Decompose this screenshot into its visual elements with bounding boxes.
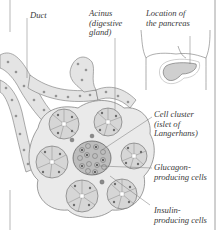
acinus-label: Acinus (digestive gland)	[89, 9, 122, 38]
glucagon-label-line2: producing cells	[154, 173, 207, 183]
duct-label: Duct	[30, 11, 47, 21]
acinus-label-line3: gland)	[89, 28, 122, 38]
duct-label-text: Duct	[30, 11, 47, 21]
islet-of-langerhans	[73, 141, 111, 175]
glucagon-label: Glucagon- producing cells	[154, 163, 207, 182]
location-label-line2: the pancreas	[146, 19, 190, 29]
insulin-label: Insulin- producing cells	[154, 206, 207, 225]
pancreas-diagram: Duct Acinus (digestive gland) Location o…	[0, 0, 218, 230]
pancreas-shape	[163, 63, 196, 81]
islet-label-line3: Langerhans)	[154, 129, 198, 139]
torso-inset	[141, 30, 210, 90]
location-label: Location of the pancreas	[146, 9, 190, 28]
islet-label: Cell cluster (islet of Langerhans)	[154, 110, 198, 139]
insulin-label-line2: producing cells	[154, 216, 207, 226]
